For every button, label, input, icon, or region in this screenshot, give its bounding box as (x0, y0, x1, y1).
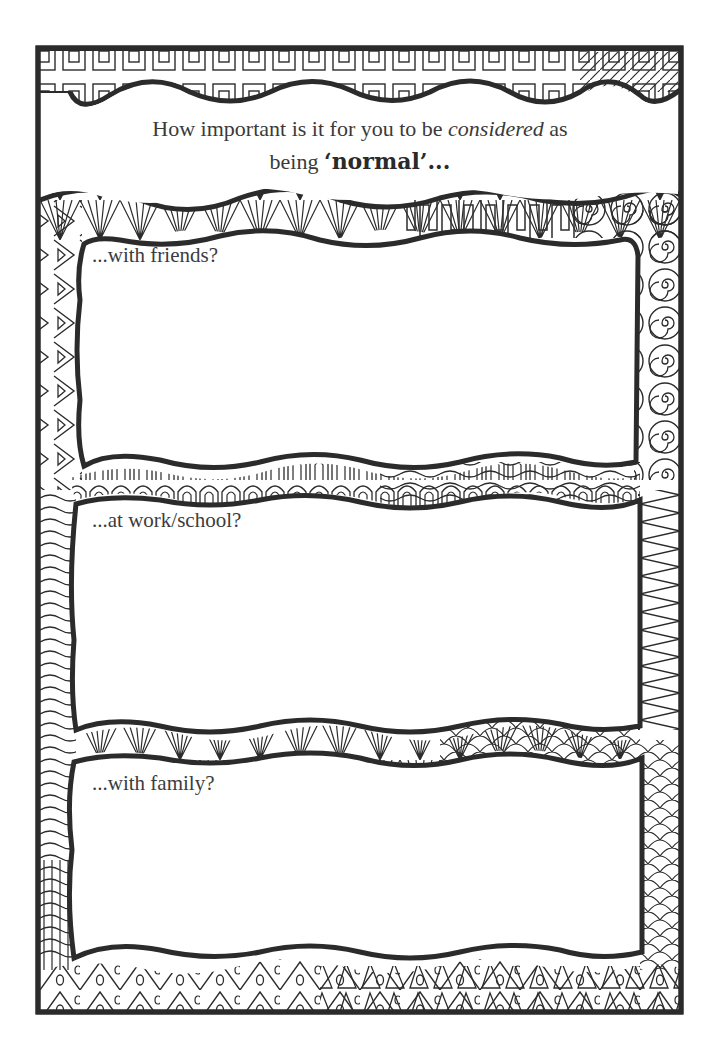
answer-area-family[interactable] (84, 803, 632, 948)
title-text-middle: as (544, 116, 568, 141)
worksheet-page: How important is it for you to be consid… (0, 0, 718, 1052)
title-line-2: being ‘normal’... (60, 145, 660, 178)
title-emphasis: considered (448, 116, 544, 141)
worksheet-title: How important is it for you to be consid… (60, 112, 660, 178)
title-text: How important is it for you to be (152, 116, 448, 141)
title-line-1: How important is it for you to be consid… (60, 112, 660, 145)
section-label-family: ...with family? (92, 771, 214, 796)
title-bold-normal: ‘normal’... (324, 148, 450, 174)
section-label-friends: ...with friends? (92, 243, 218, 268)
section-label-work-school: ...at work/school? (92, 508, 241, 533)
answer-area-friends[interactable] (92, 275, 628, 455)
title-text-line2: being (270, 149, 324, 174)
answer-area-work-school[interactable] (86, 540, 631, 720)
